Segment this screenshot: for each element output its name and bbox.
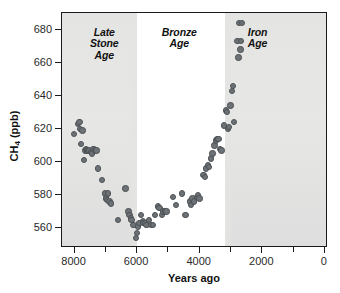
data-point xyxy=(202,174,208,180)
y-axis-tick-label: 600 xyxy=(18,155,52,167)
x-axis-minor-tick xyxy=(230,247,231,252)
x-axis-tick xyxy=(261,247,262,253)
data-point xyxy=(218,147,224,153)
x-axis-tick xyxy=(136,247,137,253)
x-axis-tick xyxy=(199,247,200,253)
data-point xyxy=(150,222,156,228)
x-axis-minor-tick xyxy=(293,247,294,252)
data-point xyxy=(93,147,99,153)
data-point xyxy=(138,212,144,218)
chart-figure: CH4 (ppb) 560580600620640660680 Late Sto… xyxy=(0,0,340,293)
x-axis-tick-label: 6000 xyxy=(124,255,148,267)
data-point xyxy=(108,200,114,206)
y-axis-tick-labels: 560580600620640660680 xyxy=(12,0,52,293)
x-axis-tick-label: 0 xyxy=(321,255,327,267)
y-axis-tick-label: 620 xyxy=(18,122,52,134)
data-point xyxy=(95,165,101,171)
x-axis-tick-label: 2000 xyxy=(249,255,273,267)
era-label-late: Late Stone Age xyxy=(64,27,144,62)
x-axis-tick-label: 8000 xyxy=(61,255,85,267)
x-axis-minor-tick xyxy=(105,247,106,252)
y-axis-tick-label: 640 xyxy=(18,89,52,101)
data-point xyxy=(182,212,188,218)
data-point xyxy=(196,195,202,201)
x-axis-title: Years ago xyxy=(61,272,327,284)
data-point xyxy=(235,54,241,60)
data-point xyxy=(209,150,215,156)
data-point xyxy=(79,127,85,133)
plot-area: Late Stone AgeBronze AgeIron Age xyxy=(61,12,327,247)
data-point xyxy=(105,190,111,196)
data-point xyxy=(76,119,82,125)
data-point xyxy=(179,190,185,196)
data-point xyxy=(115,217,121,223)
data-point xyxy=(170,194,176,200)
data-point xyxy=(122,185,128,191)
y-axis-tick-label: 560 xyxy=(18,221,52,233)
data-point xyxy=(237,46,243,52)
era-label-iron: Iron Age xyxy=(218,27,298,50)
x-axis-tick-label: 4000 xyxy=(186,255,210,267)
y-axis-tick-label: 660 xyxy=(18,56,52,68)
x-axis-minor-tick xyxy=(167,247,168,252)
data-point xyxy=(215,136,221,142)
data-point xyxy=(163,208,169,214)
y-axis-tick-label: 680 xyxy=(18,23,52,35)
x-axis-tick xyxy=(324,247,325,253)
era-label-bronze: Bronze Age xyxy=(139,27,219,50)
data-point xyxy=(227,102,233,108)
y-axis-tick-label: 580 xyxy=(18,188,52,200)
x-axis-tick xyxy=(74,247,75,253)
